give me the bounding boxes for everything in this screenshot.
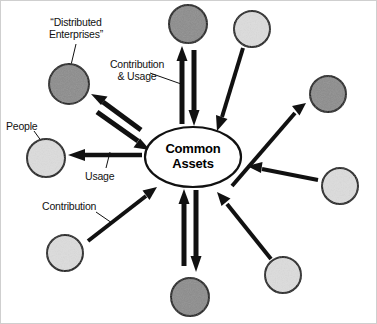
leader-distributed-enterprises [71,44,76,65]
hub-label: Common Assets [145,142,241,171]
node-people-top-right[interactable] [234,11,270,47]
arrow-people-bottom-right-to-hub [217,192,271,259]
arrow-hub-to-enterprise-top-left [91,94,150,150]
node-enterprise-right[interactable] [310,76,346,112]
node-people-bottom-left[interactable] [47,235,83,271]
hub-label-line1: Common [145,142,241,157]
arrow-hub-to-people-left [68,149,142,161]
contribution-label: Contribution [42,200,112,212]
arrow-hub-to-enterprise-top [177,46,200,126]
leader-contribution [96,212,112,223]
node-enterprise-top-left[interactable] [49,64,89,104]
node-people-bottom-right[interactable] [265,257,301,293]
distributed-enterprises-label: “Distributed Enterprises” [36,16,116,40]
usage-label: Usage [85,170,125,182]
hub-label-line2: Assets [145,157,241,172]
contribution-and-usage-label: Contribution & Usage [100,58,174,82]
arrow-people-top-right-to-hub [216,48,243,131]
node-enterprise-top[interactable] [169,5,207,43]
arrow-people-right-to-hub [247,162,318,180]
arrow-hub-to-enterprise-bottom [179,189,202,272]
node-enterprise-bottom[interactable] [171,278,209,316]
node-people-left[interactable] [27,139,65,177]
people-label: People [6,120,50,132]
node-people-right[interactable] [322,168,358,204]
